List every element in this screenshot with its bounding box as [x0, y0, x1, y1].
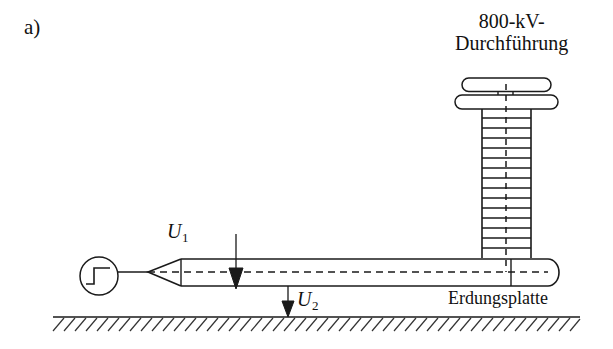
bushing-label-line2: Durchführung — [455, 32, 568, 54]
ground-hatching — [53, 318, 580, 331]
voltage-u2-symbol: U — [297, 288, 311, 310]
bushing-label-line1: 800-kV- — [479, 10, 545, 32]
u2-arrow-head — [282, 301, 294, 317]
figure-container: a) 800-kV- Durchführung U1 U2 Erdungspla… — [0, 0, 613, 349]
voltage-u2-subscript: 2 — [311, 298, 318, 313]
ground-group — [53, 317, 580, 331]
u1-measurement-arrow — [229, 234, 243, 289]
bushing-assembly — [455, 78, 558, 272]
step-function-source — [80, 257, 148, 295]
cylinder-end-cap — [548, 259, 559, 286]
voltage-u1-subscript: 1 — [181, 230, 188, 245]
ground-plate-label: Erdungsplatte — [448, 288, 548, 308]
u2-measurement-arrow — [282, 286, 294, 317]
cylinder-body — [148, 259, 559, 286]
voltage-u1-label: U1 — [167, 220, 188, 245]
source-circle — [80, 257, 118, 295]
step-waveform-icon — [86, 268, 110, 284]
panel-label: a) — [24, 16, 40, 40]
voltage-u1-symbol: U — [167, 220, 181, 242]
voltage-u2-label: U2 — [297, 288, 318, 313]
bushing-label: 800-kV- Durchführung — [455, 10, 568, 55]
